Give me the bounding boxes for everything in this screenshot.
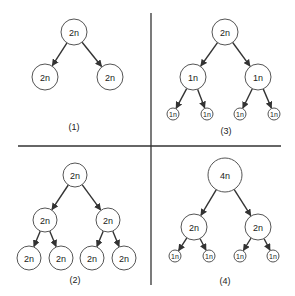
- node-label: 2n: [56, 254, 66, 264]
- arrow-edge: [234, 189, 251, 215]
- node-label: 1n: [171, 253, 179, 260]
- node-label: 1n: [203, 111, 211, 118]
- tree-node: 1n: [201, 108, 213, 120]
- arrow-edge: [179, 238, 187, 251]
- tree-node: 2n: [61, 19, 87, 45]
- arrow-edge: [200, 239, 206, 251]
- arrow-edge: [201, 43, 218, 66]
- tree-node: 1n: [234, 250, 246, 262]
- panel-caption: (1): [69, 122, 80, 132]
- node-label: 2n: [220, 28, 230, 38]
- panel-caption: (3): [221, 126, 232, 136]
- tree-node: 2n: [181, 214, 207, 240]
- arrow-edge: [97, 231, 103, 246]
- diagram-canvas: 2n2n2n(1)2n1n1n1n1n1n1n(3)2n2n2n2n2n2n2n…: [0, 0, 295, 296]
- node-label: 2n: [103, 216, 113, 226]
- panels: 2n2n2n(1)2n1n1n1n1n1n1n(3)2n2n2n2n2n2n2n…: [17, 19, 280, 286]
- arrow-edge: [264, 239, 270, 251]
- tree-node: 2n: [80, 246, 104, 270]
- panel-3: 2n1n1n1n1n1n1n(3): [167, 19, 280, 136]
- panel-1: 2n2n2n(1): [32, 19, 123, 132]
- node-label: 1n: [188, 73, 198, 83]
- arrow-edge: [50, 231, 56, 246]
- node-label: 1n: [270, 111, 278, 118]
- node-label: 2n: [40, 216, 50, 226]
- node-label: 2n: [189, 223, 199, 233]
- node-label: 2n: [69, 28, 79, 38]
- tree-node: 2n: [32, 64, 58, 90]
- arrow-edge: [34, 231, 40, 246]
- arrow-edge: [233, 43, 250, 67]
- node-label: 4n: [220, 171, 230, 181]
- tree-node: 2n: [33, 208, 57, 232]
- tree-node: 2n: [245, 214, 271, 240]
- tree-node: 2n: [96, 208, 120, 232]
- tree-node: 1n: [180, 64, 206, 90]
- tree-node: 1n: [167, 108, 179, 120]
- tree-node: 2n: [97, 64, 123, 90]
- arrow-edge: [52, 43, 67, 66]
- tree-node: 2n: [63, 163, 87, 187]
- arrow-edge: [82, 42, 102, 66]
- arrow-edge: [198, 89, 205, 108]
- node-label: 1n: [205, 253, 213, 260]
- node-label: 1n: [236, 111, 244, 118]
- tree-diagram-figure: 2n2n2n(1)2n1n1n1n1n1n1n(3)2n2n2n2n2n2n2n…: [0, 0, 295, 296]
- tree-node: 2n: [112, 246, 136, 270]
- tree-node: 1n: [234, 108, 246, 120]
- tree-node: 4n: [208, 158, 242, 192]
- node-label: 2n: [119, 254, 129, 264]
- arrow-edge: [201, 190, 216, 216]
- panel-caption: (2): [70, 275, 81, 285]
- panel-2: 2n2n2n2n2n2n2n(2): [17, 163, 136, 285]
- tree-node: 1n: [203, 250, 215, 262]
- arrow-edge: [52, 185, 68, 210]
- arrow-edge: [176, 88, 187, 108]
- tree-node: 1n: [268, 108, 280, 120]
- arrow-edge: [82, 185, 101, 210]
- arrow-edge: [263, 89, 271, 108]
- node-label: 2n: [253, 223, 263, 233]
- node-label: 2n: [40, 73, 50, 83]
- tree-node: 2n: [212, 19, 238, 45]
- tree-node: 1n: [267, 250, 279, 262]
- node-label: 2n: [105, 73, 115, 83]
- arrow-edge: [243, 238, 251, 251]
- tree-node: 1n: [169, 250, 181, 262]
- node-label: 1n: [236, 253, 244, 260]
- tree-node: 1n: [245, 64, 271, 90]
- node-label: 1n: [169, 111, 177, 118]
- tree-node: 2n: [17, 246, 41, 270]
- node-label: 2n: [24, 254, 34, 264]
- arrow-edge: [243, 89, 253, 109]
- node-label: 1n: [253, 73, 263, 83]
- node-label: 2n: [87, 254, 97, 264]
- arrow-edge: [113, 231, 119, 246]
- node-label: 1n: [269, 253, 277, 260]
- panel-caption: (4): [220, 276, 231, 286]
- node-label: 2n: [70, 171, 80, 181]
- tree-node: 2n: [49, 246, 73, 270]
- panel-4: 4n2n2n1n1n1n1n(4): [169, 158, 279, 286]
